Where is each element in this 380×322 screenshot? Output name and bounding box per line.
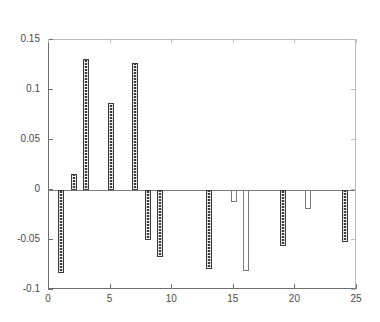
bar: [305, 190, 311, 209]
x-axis-tick-top: [171, 39, 172, 43]
y-axis-tick: [48, 89, 53, 90]
y-axis-tick-right: [351, 289, 356, 290]
chart-figure: 0.150.10.050-0.05-0.10510152025: [0, 0, 380, 322]
bar: [157, 190, 163, 257]
y-axis-tick-right: [351, 89, 356, 90]
y-axis-tick: [48, 239, 53, 240]
y-axis-tick-right: [351, 139, 356, 140]
x-axis-tick: [294, 284, 295, 289]
bar: [342, 190, 348, 242]
x-axis-label: 15: [213, 294, 253, 304]
x-axis-tick-top: [233, 39, 234, 43]
x-axis-label: 0: [28, 294, 68, 304]
bar: [243, 190, 249, 271]
y-axis-tick: [48, 139, 53, 140]
bar: [145, 190, 151, 240]
x-axis-tick-top: [48, 39, 49, 43]
x-axis-tick-top: [294, 39, 295, 43]
x-axis-tick-top: [356, 39, 357, 43]
x-axis-tick: [48, 284, 49, 289]
y-axis-tick: [48, 189, 53, 190]
bar: [206, 190, 212, 269]
plot-area: [48, 39, 356, 289]
y-axis-label: 0.1: [0, 84, 40, 94]
bar: [280, 190, 286, 246]
x-axis-tick: [110, 284, 111, 289]
x-axis-tick-top: [110, 39, 111, 43]
bar-series: [49, 40, 355, 288]
y-axis-label: -0.1: [0, 284, 40, 294]
bar: [83, 59, 89, 190]
x-axis-label: 5: [90, 294, 130, 304]
y-axis-tick-right: [351, 189, 356, 190]
x-axis-label: 10: [151, 294, 191, 304]
bar: [231, 190, 237, 202]
bar: [132, 63, 138, 190]
y-axis-tick-right: [351, 239, 356, 240]
y-axis-label: 0: [0, 184, 40, 194]
y-axis-label: 0.05: [0, 134, 40, 144]
bar: [71, 174, 77, 190]
x-axis-tick: [233, 284, 234, 289]
x-axis-tick: [356, 284, 357, 289]
y-axis-tick: [48, 289, 53, 290]
y-axis-label: 0.15: [0, 34, 40, 44]
x-axis-tick: [171, 284, 172, 289]
x-axis-label: 20: [274, 294, 314, 304]
y-axis-label: -0.05: [0, 234, 40, 244]
x-axis-label: 25: [336, 294, 376, 304]
bar: [58, 190, 64, 273]
bar: [108, 103, 114, 190]
